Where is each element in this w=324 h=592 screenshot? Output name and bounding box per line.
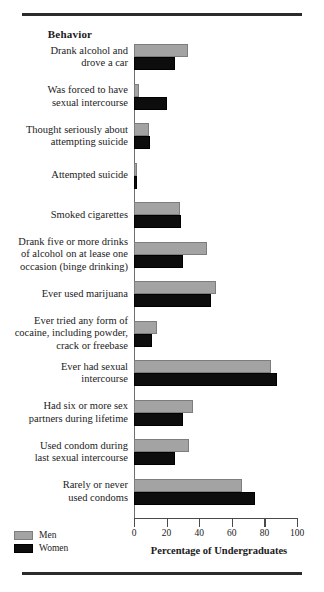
category-label-line: Ever tried any form of — [0, 315, 128, 328]
category-label-line: Ever used marijuana — [0, 288, 128, 301]
bar-women — [134, 452, 175, 465]
legend-label-women: Women — [39, 543, 68, 553]
category-label-line: drove a car — [0, 57, 128, 70]
legend-item-men: Men — [14, 530, 68, 540]
bar-men — [134, 281, 216, 294]
bar-women — [134, 136, 150, 149]
category-label-line: cocaine, including powder, — [0, 327, 128, 340]
bar-women — [134, 97, 167, 110]
category-label-line: Was forced to have — [0, 84, 128, 97]
category-label-line: crack or freebase — [0, 340, 128, 353]
bar-men — [134, 202, 180, 215]
x-tick — [264, 518, 265, 527]
bar-women — [134, 294, 211, 307]
category-label: Used condom duringlast sexual intercours… — [0, 440, 128, 465]
bar-women — [134, 413, 183, 426]
x-axis — [134, 518, 298, 527]
category-label-line: used condoms — [0, 492, 128, 505]
legend-label-men: Men — [39, 530, 56, 540]
x-tick — [199, 518, 200, 527]
category-label-line: attempting suicide — [0, 136, 128, 149]
x-axis-baseline — [134, 518, 298, 519]
category-label: Was forced to havesexual intercourse — [0, 84, 128, 109]
bar-men — [134, 242, 207, 255]
bar-women — [134, 215, 181, 228]
bar-women — [134, 334, 152, 347]
x-tick — [134, 518, 135, 527]
x-tick-label: 80 — [260, 528, 270, 538]
bar-women — [134, 57, 175, 70]
x-tick-label: 100 — [290, 528, 304, 538]
category-label-line: intercourse — [0, 373, 128, 386]
bar-men — [134, 439, 189, 452]
x-tick — [232, 518, 233, 527]
bar-men — [134, 84, 139, 97]
legend-item-women: Women — [14, 543, 68, 553]
top-rule — [22, 13, 302, 16]
bar-women — [134, 255, 183, 268]
x-tick — [167, 518, 168, 527]
x-axis-title: Percentage of Undergraduates — [134, 545, 304, 556]
category-label-line: Used condom during — [0, 440, 128, 453]
legend-swatch-men — [14, 531, 33, 540]
category-label: Smoked cigarettes — [0, 209, 128, 222]
bar-men — [134, 360, 271, 373]
category-label-line: last sexual intercourse — [0, 452, 128, 465]
category-label-line: partners during lifetime — [0, 413, 128, 426]
bar-men — [134, 123, 149, 136]
x-tick-label: 60 — [227, 528, 237, 538]
category-label: Attempted suicide — [0, 169, 128, 182]
category-label: Thought seriously aboutattempting suicid… — [0, 124, 128, 149]
category-label: Had six or more sexpartners during lifet… — [0, 400, 128, 425]
category-label-line: sexual intercourse — [0, 97, 128, 110]
x-tick — [297, 518, 298, 527]
bar-women — [134, 492, 255, 505]
x-tick-label: 0 — [132, 528, 137, 538]
category-label: Ever had sexualintercourse — [0, 361, 128, 386]
bottom-rule — [22, 572, 302, 575]
legend-swatch-women — [14, 544, 33, 553]
bar-women — [134, 373, 277, 386]
legend: Men Women — [14, 530, 68, 556]
category-label: Rarely or neverused condoms — [0, 479, 128, 504]
bar-men — [134, 479, 242, 492]
category-label-line: Smoked cigarettes — [0, 209, 128, 222]
category-label: Drank five or more drinksof alcohol on a… — [0, 236, 128, 274]
bar-men — [134, 44, 188, 57]
category-label-line: Drank five or more drinks — [0, 236, 128, 249]
category-label-line: Rarely or never — [0, 479, 128, 492]
category-label: Ever used marijuana — [0, 288, 128, 301]
x-tick-label: 40 — [194, 528, 204, 538]
bar-men — [134, 321, 157, 334]
category-label-line: Thought seriously about — [0, 124, 128, 137]
category-label: Drank alcohol anddrove a car — [0, 45, 128, 70]
bar-men — [134, 163, 137, 176]
bar-women — [134, 176, 137, 189]
category-label-line: Had six or more sex — [0, 400, 128, 413]
behavior-column-header: Behavior — [0, 28, 140, 40]
bar-chart-figure: Behavior Percentage of Undergraduates Me… — [0, 0, 324, 592]
bar-men — [134, 400, 193, 413]
plot-area — [134, 44, 297, 518]
category-label-line: Ever had sexual — [0, 361, 128, 374]
category-label-line: of alcohol on at lease one — [0, 248, 128, 261]
category-label: Ever tried any form ofcocaine, including… — [0, 315, 128, 353]
category-label-line: Drank alcohol and — [0, 45, 128, 58]
category-label-line: Attempted suicide — [0, 169, 128, 182]
x-tick-label: 20 — [162, 528, 172, 538]
category-label-line: occasion (binge drinking) — [0, 261, 128, 274]
